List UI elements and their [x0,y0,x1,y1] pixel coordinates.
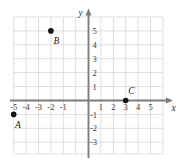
point-a-marker [11,112,17,118]
point-b-marker [48,28,54,34]
y-tick-pos3: 3 [93,54,97,64]
x-tick-pos1: 1 [99,102,103,112]
y-tick-pos1: 1 [93,82,97,92]
x-tick-neg1: -1 [60,102,67,112]
y-tick-neg1: -1 [90,110,97,120]
x-tick-neg5: -5 [10,102,17,112]
coordinate-plane-figure: y x -5 -4 -3 -2 -1 1 2 3 4 5 5 4 3 2 1 -… [0,0,182,163]
x-tick-pos4: 4 [136,102,141,112]
x-tick-neg3: -3 [35,102,42,112]
y-tick-neg3: -3 [90,137,97,147]
x-tick-pos5: 5 [148,102,152,112]
x-tick-neg4: -4 [23,102,31,112]
coordinate-plane-svg: y x -5 -4 -3 -2 -1 1 2 3 4 5 5 4 3 2 1 -… [0,0,182,163]
x-tick-pos2: 2 [111,102,115,112]
x-tick-pos3: 3 [124,102,128,112]
y-tick-pos2: 2 [93,68,97,78]
y-axis-label: y [78,8,84,18]
point-b-label: B [54,36,60,46]
y-tick-pos5: 5 [93,26,97,36]
point-a-label: A [14,120,21,130]
x-tick-neg2: -2 [47,102,54,112]
x-axis-label: x [171,103,177,113]
point-c-label: C [128,86,135,96]
y-tick-neg2: -2 [90,123,97,133]
point-c-marker [123,98,129,104]
